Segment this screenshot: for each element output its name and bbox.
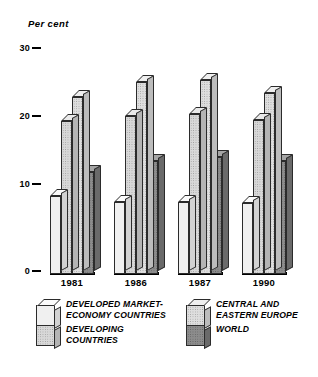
bar-front-face bbox=[50, 196, 61, 274]
bar-side-face bbox=[147, 75, 154, 271]
y-axis-tick-0: 0 bbox=[8, 266, 30, 276]
legend-label-developing-countries: DEVELOPING COUNTRIES bbox=[66, 324, 124, 346]
legend-swatch-cee-top bbox=[187, 299, 211, 306]
legend-swatch-cee-side bbox=[204, 306, 211, 329]
y-axis-tick-30-mark bbox=[32, 47, 41, 49]
legend-swatch-right bbox=[186, 298, 206, 344]
bar-developed-market-economy-countries-1987 bbox=[178, 202, 189, 274]
bar-group-1981 bbox=[50, 30, 101, 274]
bar-side-face bbox=[264, 113, 271, 271]
y-axis-tick-0-mark bbox=[32, 270, 41, 272]
legend-swatch-central-eastern-europe bbox=[186, 305, 205, 326]
y-axis-unit-label: Per cent bbox=[28, 18, 69, 29]
bar-front-face bbox=[242, 203, 253, 274]
bar-side-face bbox=[61, 189, 68, 271]
bar-side-face bbox=[83, 90, 90, 271]
legend-swatch-world bbox=[186, 325, 205, 346]
bar-side-face bbox=[94, 165, 101, 271]
bar-side-face bbox=[253, 196, 260, 271]
bar-front-face bbox=[178, 202, 189, 274]
y-axis-tick-10: 10 bbox=[8, 179, 30, 189]
y-axis-tick-10-mark bbox=[32, 183, 41, 185]
y-axis-tick-0-label: 0 bbox=[25, 266, 30, 276]
bar-side-face bbox=[200, 107, 207, 271]
y-axis-tick-20-label: 20 bbox=[20, 111, 30, 121]
legend-swatch-developing-side bbox=[54, 326, 61, 349]
bar-developed-market-economy-countries-1981 bbox=[50, 196, 61, 274]
legend-swatch-developed-top bbox=[37, 299, 61, 306]
x-axis-label-1987: 1987 bbox=[178, 277, 222, 288]
bar-side-face bbox=[211, 73, 218, 271]
legend-label-central-and-eastern-europe: CENTRAL AND EASTERN EUROPE bbox=[216, 299, 298, 321]
plot-area: 1981198619871990 bbox=[46, 30, 314, 274]
bar-developed-market-economy-countries-1986 bbox=[114, 202, 125, 274]
y-axis-tick-30-label: 30 bbox=[20, 43, 30, 53]
legend-label-developed-market-economy-countries: DEVELOPED MARKET- ECONOMY COUNTRIES bbox=[66, 299, 166, 321]
x-axis-label-1990: 1990 bbox=[242, 277, 286, 288]
legend-swatch-left bbox=[36, 298, 56, 344]
legend-swatch-developed bbox=[36, 305, 55, 326]
x-axis-label-1986: 1986 bbox=[114, 277, 158, 288]
bar-side-face bbox=[72, 114, 79, 271]
bar-developed-market-economy-countries-1990 bbox=[242, 203, 253, 274]
bar-side-face bbox=[158, 154, 165, 271]
legend-label-world: WORLD bbox=[216, 324, 249, 335]
y-axis-tick-20: 20 bbox=[8, 111, 30, 121]
bar-side-face bbox=[136, 109, 143, 271]
bar-group-1986 bbox=[114, 30, 165, 274]
y-axis-tick-30: 30 bbox=[8, 43, 30, 53]
bar-side-face bbox=[189, 195, 196, 271]
bar-side-face bbox=[286, 154, 293, 271]
bar-side-face bbox=[275, 86, 282, 271]
chart-legend: DEVELOPED MARKET- ECONOMY COUNTRIES DEVE… bbox=[0, 296, 318, 366]
legend-swatch-developed-side bbox=[54, 306, 61, 329]
bar-group-1990 bbox=[242, 30, 293, 274]
y-axis-tick-20-mark bbox=[32, 115, 41, 117]
y-axis-tick-10-label: 10 bbox=[20, 179, 30, 189]
bar-chart: Per cent 30 20 10 0 1981198619871990 bbox=[0, 0, 318, 377]
bar-side-face bbox=[125, 195, 132, 271]
legend-swatch-developing bbox=[36, 325, 55, 346]
x-axis-label-1981: 1981 bbox=[50, 277, 94, 288]
legend-swatch-world-side bbox=[204, 326, 211, 349]
bar-group-1987 bbox=[178, 30, 229, 274]
bar-side-face bbox=[222, 150, 229, 271]
bar-front-face bbox=[114, 202, 125, 274]
